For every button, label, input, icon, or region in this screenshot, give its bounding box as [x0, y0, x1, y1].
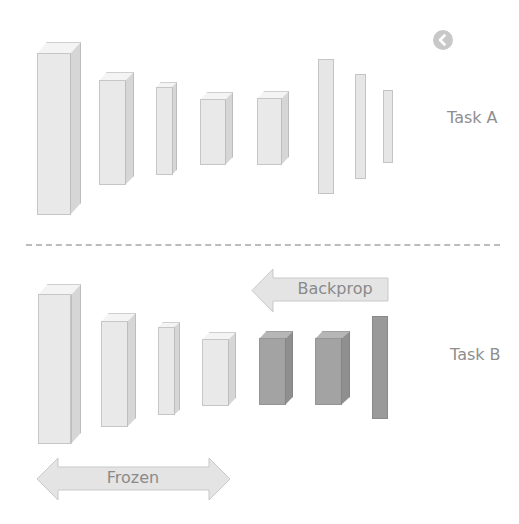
back-chevron-circle-icon[interactable] [433, 30, 453, 50]
block-side-face [127, 313, 136, 427]
task-b-layer-6-trainable [315, 331, 350, 405]
task-a-layer-7 [355, 74, 366, 179]
block-front-face [257, 98, 282, 165]
backprop-arrow: Backprop [251, 268, 389, 313]
block-side-face [125, 72, 134, 185]
task-b-layer-3-frozen [158, 322, 180, 415]
task-b-label: Task B [450, 345, 501, 364]
block-side-face [172, 82, 177, 175]
block-side-face [174, 322, 180, 415]
block-front-face [156, 87, 173, 175]
task-a-layer-8 [383, 90, 393, 163]
task-a-layer-1 [37, 42, 81, 215]
block-front-face [202, 339, 229, 406]
task-a-layer-5 [257, 91, 289, 165]
task-divider-dashed-line [26, 244, 500, 246]
transfer-learning-diagram: Task A Backprop [0, 0, 519, 524]
block-front-face [158, 327, 175, 415]
task-b-layer-2-frozen [101, 313, 136, 427]
task-a-label: Task A [447, 108, 498, 127]
task-a-layer-6 [318, 59, 334, 194]
task-b-layer-5-trainable [259, 331, 293, 405]
frozen-arrow: Frozen [36, 457, 231, 501]
block-front-face [101, 321, 128, 427]
task-b-layer-7-trainable [372, 316, 388, 419]
block-front-face [315, 338, 342, 405]
block-side-face [225, 92, 233, 165]
backprop-label: Backprop [285, 279, 385, 298]
task-a-layer-4 [200, 92, 233, 165]
block-front-face [99, 80, 126, 185]
task-b-layer-4-frozen [202, 332, 236, 406]
frozen-label: Frozen [83, 468, 183, 487]
block-front-face [37, 53, 71, 215]
block-side-face [71, 284, 81, 444]
block-front-face [259, 338, 286, 405]
task-a-layer-3 [156, 82, 177, 175]
block-front-face [200, 99, 226, 165]
block-side-face [228, 332, 236, 406]
block-front-face [38, 294, 71, 444]
block-side-face [281, 91, 289, 165]
block-side-face [285, 331, 293, 405]
block-side-face [341, 331, 350, 405]
task-b-layer-1-frozen [38, 284, 81, 444]
block-side-face [70, 42, 81, 215]
task-a-layer-2 [99, 72, 134, 185]
